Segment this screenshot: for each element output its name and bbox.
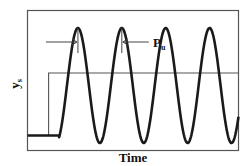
x-axis-label: Time	[119, 150, 148, 165]
response-curve	[28, 28, 239, 143]
oscillation-diagram: Pu Time ys	[0, 0, 246, 166]
y-axis-label: ys	[7, 79, 24, 89]
period-label: Pu	[153, 35, 166, 52]
period-annotation: Pu	[46, 28, 166, 53]
